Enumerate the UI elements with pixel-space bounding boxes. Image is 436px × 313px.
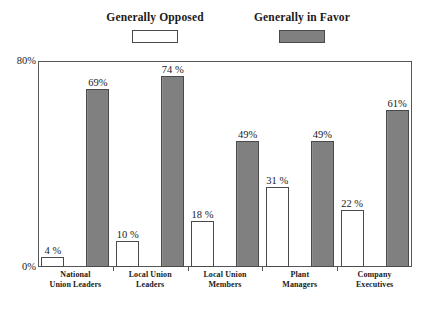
bar-value-label: 22 % [341, 198, 363, 209]
legend-entry-generally-opposed: Generally Opposed [75, 11, 235, 43]
category-label-4: CompanyExecutives [329, 270, 421, 289]
bar-value-label: 61% [387, 98, 406, 109]
bar-value-label: 49% [238, 129, 257, 140]
bar-value-label: 74 % [162, 64, 184, 75]
bar-value-label: 4 % [45, 245, 62, 256]
legend-entry-generally-in-favor: Generally in Favor [222, 11, 382, 43]
bar-favor-3: 49% [311, 141, 334, 267]
bar-value-label: 31 % [266, 175, 288, 186]
bar-value-label: 49% [313, 129, 332, 140]
x-axis-category-labels: NationalUnion LeadersLocal UnionLeadersL… [38, 270, 412, 300]
bar-favor-2: 49% [236, 141, 259, 267]
legend-label-generally-opposed: Generally Opposed [75, 11, 235, 24]
legend-label-generally-in-favor: Generally in Favor [222, 11, 382, 24]
bar-chart: Generally Opposed Generally in Favor 80%… [0, 0, 436, 313]
category-label-line: Executives [329, 280, 421, 290]
bar-value-label: 69% [88, 77, 107, 88]
bar-favor-4: 61% [386, 110, 409, 267]
bars-layer: 4 %69%10 %74 %18 %49%31 %49%22 %61% [38, 61, 412, 267]
legend-swatch-generally-in-favor [279, 30, 325, 43]
bar-favor-1: 74 % [161, 76, 184, 267]
bar-opposed-3: 31 % [266, 187, 289, 267]
legend-swatch-generally-opposed [132, 30, 178, 43]
chart-legend: Generally Opposed Generally in Favor [0, 0, 436, 56]
bar-favor-0: 69% [86, 89, 109, 267]
y-axis-tick-label-top: 80% [4, 55, 36, 66]
bar-value-label: 18 % [192, 209, 214, 220]
bar-value-label: 10 % [117, 229, 139, 240]
bar-opposed-1: 10 % [116, 241, 139, 267]
bar-opposed-0: 4 % [41, 257, 64, 267]
category-label-line: Company [329, 270, 421, 280]
bar-opposed-2: 18 % [191, 221, 214, 267]
bar-opposed-4: 22 % [341, 210, 364, 267]
